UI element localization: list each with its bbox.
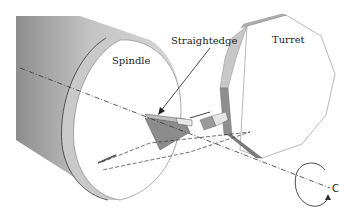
spindle-label: Spindle (112, 56, 150, 66)
turret-lower-edge (220, 88, 232, 135)
c-axis-label: C (332, 184, 339, 194)
spindle (16, 16, 181, 200)
c-axis-rotation (295, 163, 331, 206)
straightedge-label: Straightedge (171, 36, 237, 46)
tool-holder-tip (190, 112, 210, 118)
rotation-arc (295, 163, 328, 206)
lathe-diagram: Spindle Straightedge Turret C (0, 0, 352, 224)
rotation-arrowhead-icon (325, 194, 331, 200)
turret-label: Turret (272, 35, 305, 45)
